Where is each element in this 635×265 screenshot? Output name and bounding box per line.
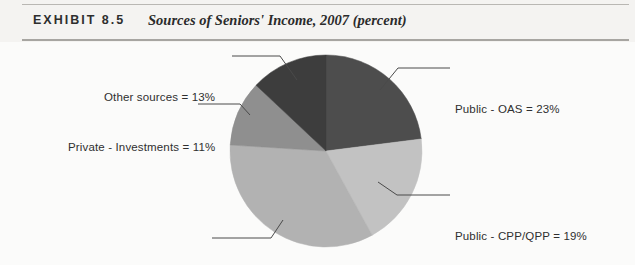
leader-line-cpp-qpp	[378, 182, 450, 195]
exhibit-figure: EXHIBIT 8.5 Sources of Seniors' Income, …	[0, 0, 635, 265]
leader-line-pensions	[212, 220, 283, 238]
callout-label-cpp-qpp: Public - CPP/QPP = 19%	[455, 230, 587, 242]
leader-line-oas	[380, 68, 450, 90]
leader-line-investments	[198, 104, 250, 115]
callout-label-other-sources: Other sources = 13%	[104, 91, 215, 103]
exhibit-title: Sources of Seniors' Income, 2007 (percen…	[148, 12, 407, 29]
exhibit-number-label: EXHIBIT 8.5	[33, 13, 125, 27]
callout-label-oas: Public - OAS = 23%	[455, 103, 560, 115]
callout-label-investments: Private - Investments = 11%	[68, 141, 215, 153]
header-rule-top	[22, 4, 629, 5]
pie-chart-area: Other sources = 13% Private - Investment…	[0, 42, 635, 265]
exhibit-header: EXHIBIT 8.5 Sources of Seniors' Income, …	[0, 0, 635, 42]
header-rule-bottom	[22, 39, 629, 41]
leader-line-other-sources	[232, 56, 297, 80]
